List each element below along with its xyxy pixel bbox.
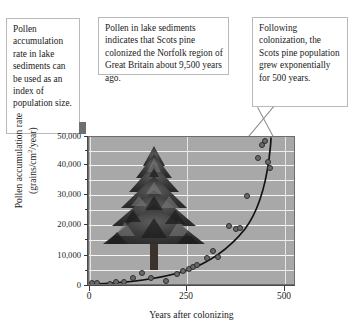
callout-exponential-growth: Following colonization, the Scots pine p… [252, 17, 348, 107]
y-units-post: /year) [28, 127, 39, 149]
data-point [262, 138, 268, 144]
callout-colonization-date: Pollen in lake sediments indicates that … [98, 17, 229, 75]
x-tick-label-250: 250 [166, 291, 206, 301]
y-tick-label-40000: 40,000 [39, 159, 81, 169]
y-axis-title-units: (grains/cm2/year) [28, 127, 39, 194]
data-point [237, 225, 243, 231]
x-tick-label-500: 500 [264, 291, 304, 301]
y-tick-label-30000: 30,000 [39, 189, 81, 199]
y-axis-title: Pollen accumulation rate (grains/cm2/yea… [13, 87, 38, 235]
x-tick-label-0: 0 [69, 291, 109, 301]
y-tick-label-10000: 10,000 [39, 250, 81, 260]
y-axis-title-main: Pollen accumulation rate [13, 113, 24, 208]
y-tick-label-20000: 20,000 [39, 219, 81, 229]
data-point [174, 271, 180, 277]
exponential-fit-curve [89, 137, 295, 285]
data-point [121, 279, 127, 285]
data-point [226, 223, 232, 229]
data-point [244, 193, 250, 199]
plot-area [88, 136, 295, 285]
data-point [194, 262, 200, 268]
x-axis-line [88, 285, 295, 286]
data-point [113, 279, 119, 285]
data-point [148, 275, 154, 281]
data-point [215, 254, 221, 260]
data-point [130, 275, 136, 281]
data-point [204, 255, 210, 261]
data-point [163, 278, 169, 284]
data-point [255, 155, 261, 161]
y-tick-label-50000: 50,000 [39, 131, 81, 141]
data-point [210, 248, 216, 254]
y-tick-label-0: 0 [39, 280, 81, 290]
data-point [94, 280, 100, 285]
x-axis-title: Years after colonizing [88, 309, 295, 320]
y-units-pre: (grains/cm [28, 153, 39, 194]
y-units-exponent: 2 [26, 150, 33, 153]
data-point [267, 165, 273, 171]
y-tick-0 [84, 285, 88, 286]
data-point [139, 270, 145, 276]
